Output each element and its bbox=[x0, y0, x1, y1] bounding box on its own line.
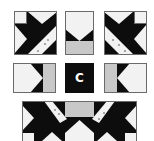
star-corner-block-shape bbox=[14, 11, 57, 55]
block-top-right bbox=[104, 11, 147, 55]
block-middle-right bbox=[104, 63, 147, 93]
block-top-left bbox=[14, 11, 57, 55]
center-label: C bbox=[65, 63, 94, 93]
block-bottom-strip bbox=[22, 101, 137, 141]
flying-goose-left-block-shape bbox=[13, 63, 56, 93]
flying-goose-block-shape bbox=[65, 11, 94, 55]
block-top-middle bbox=[65, 11, 94, 55]
assembled-row-shape bbox=[22, 101, 137, 141]
flying-goose-right-block-shape bbox=[104, 63, 147, 93]
block-middle-left bbox=[13, 63, 56, 93]
block-center: C bbox=[65, 63, 94, 93]
star-corner-mirrored-block-shape bbox=[104, 11, 147, 55]
